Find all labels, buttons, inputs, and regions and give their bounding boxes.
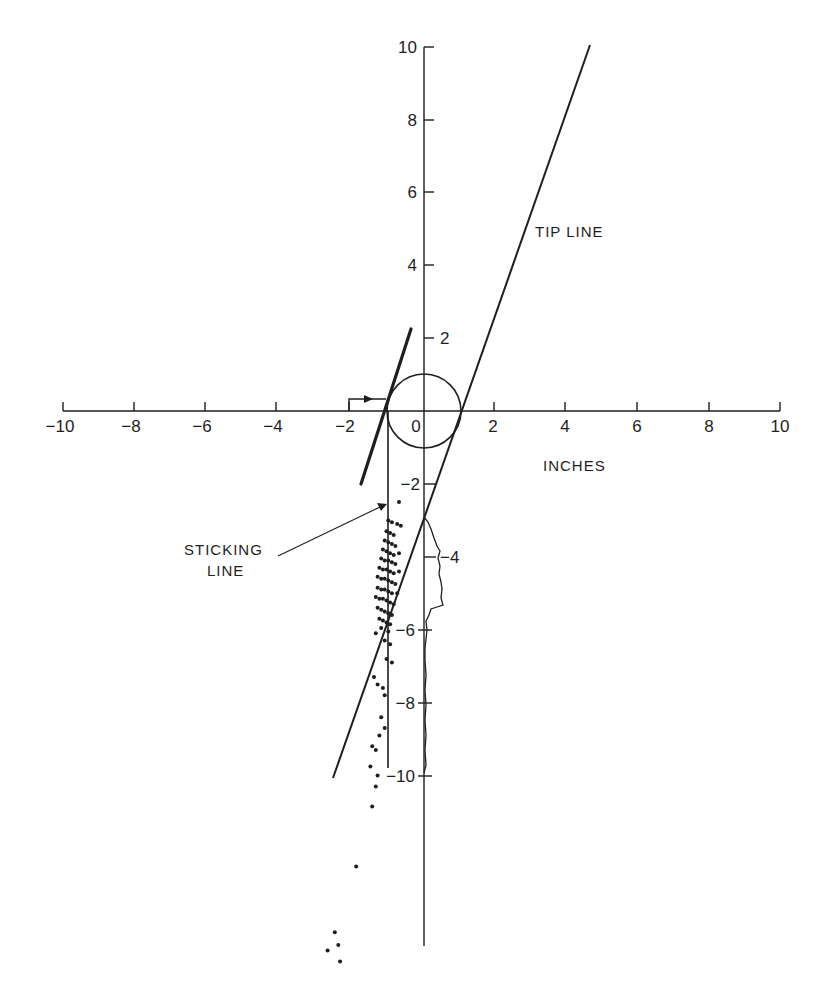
data-point [392,571,396,575]
y-tick-label: −10 [386,767,415,786]
y-tick-labels: 10 8 6 4 2 −2 −4 −6 −8 −10 [386,38,459,786]
data-point [368,764,372,768]
data-point [388,600,392,604]
x-tick-labels: −10 −8 −6 −4 −2 0 2 4 6 8 10 [46,417,790,436]
data-point [392,553,396,557]
data-point [385,568,389,572]
y-tick-label: 4 [408,256,417,275]
data-point [377,733,381,737]
data-point [386,540,390,544]
data-point [379,626,383,630]
data-point [333,930,337,934]
data-point [390,542,394,546]
arrowhead-icon [377,503,387,511]
x-tick-label: −10 [46,417,75,436]
data-point [379,715,383,719]
data-point [385,529,389,533]
data-point [397,551,401,555]
data-point [385,620,389,624]
data-point [381,686,385,690]
y-tick-label: 6 [408,183,417,202]
data-point [377,617,381,621]
data-point [379,608,383,612]
data-point [388,551,392,555]
data-point [390,613,394,617]
y-tick-label: 10 [398,38,417,57]
data-point [386,611,390,615]
x-tick-label: 6 [632,417,641,436]
data-point [386,558,390,562]
offset-arrow [349,395,386,411]
data-point [393,582,397,586]
data-point [383,610,387,614]
data-point [395,591,399,595]
data-point [376,606,380,610]
data-point [374,595,378,599]
data-point [388,569,392,573]
tip-line-label: TIP LINE [535,223,604,240]
data-point [390,560,394,564]
data-point [377,597,381,601]
data-point [372,675,376,679]
data-point [381,597,385,601]
sticking-line-label-2: LINE [207,562,244,579]
data-point [354,865,358,869]
thick-reference-line [361,329,411,484]
data-point [383,538,387,542]
data-point [395,522,399,526]
data-point [379,577,383,581]
y-tick-label: −4 [440,548,459,567]
y-tick-label: −2 [401,475,420,494]
x-tick-label: 10 [771,417,790,436]
data-point [383,588,387,592]
x-tick-label: 2 [488,417,497,436]
y-axis [418,47,436,946]
sticking-line-label-1: STICKING [184,541,263,558]
data-point [392,602,396,606]
data-point [390,591,394,595]
data-point [390,661,394,665]
y-tick-label: 2 [440,329,449,348]
data-point [379,557,383,561]
data-point [381,568,385,572]
data-point [326,949,330,953]
data-point [399,524,403,528]
data-point [376,575,380,579]
data-point [397,500,401,504]
data-point [388,531,392,535]
data-point [390,520,394,524]
data-point [376,774,380,778]
x-tick-label: −2 [335,417,354,436]
y-tick-label: −8 [396,694,415,713]
data-point [383,726,387,730]
data-point [370,805,374,809]
data-point [393,544,397,548]
data-point [385,549,389,553]
arrowhead-icon [364,395,373,403]
data-point [374,748,378,752]
x-axis [63,402,780,411]
y-tick-label: 8 [408,111,417,130]
data-point [338,959,342,963]
data-point [383,577,387,581]
data-point [379,588,383,592]
data-point [390,580,394,584]
x-tick-label: 8 [704,417,713,436]
data-point [374,631,378,635]
data-point [383,693,387,697]
x-tick-label: 4 [560,417,569,436]
figure: −10 −8 −6 −4 −2 0 2 4 6 8 10 10 8 6 4 2 … [0,0,822,986]
data-point [370,744,374,748]
data-point [388,622,392,626]
data-point [388,642,392,646]
data-point [377,566,381,570]
scatter-points [326,500,403,963]
data-point [392,533,396,537]
data-point [386,579,390,583]
x-tick-label: 0 [411,417,420,436]
data-point [383,558,387,562]
data-point [383,639,387,643]
data-point [381,619,385,623]
x-axis-unit-label: INCHES [543,457,606,474]
y-tick-label: −6 [396,621,415,640]
